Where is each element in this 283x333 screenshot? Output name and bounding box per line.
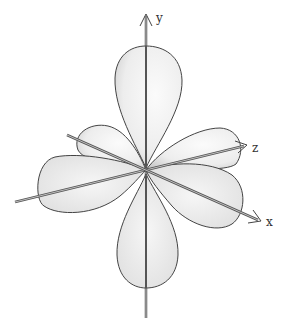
y-axis-label: y: [155, 11, 163, 25]
orbital-diagram: y z x: [0, 0, 283, 333]
z-axis-label: z: [252, 141, 258, 155]
x-axis-label: x: [266, 215, 273, 229]
